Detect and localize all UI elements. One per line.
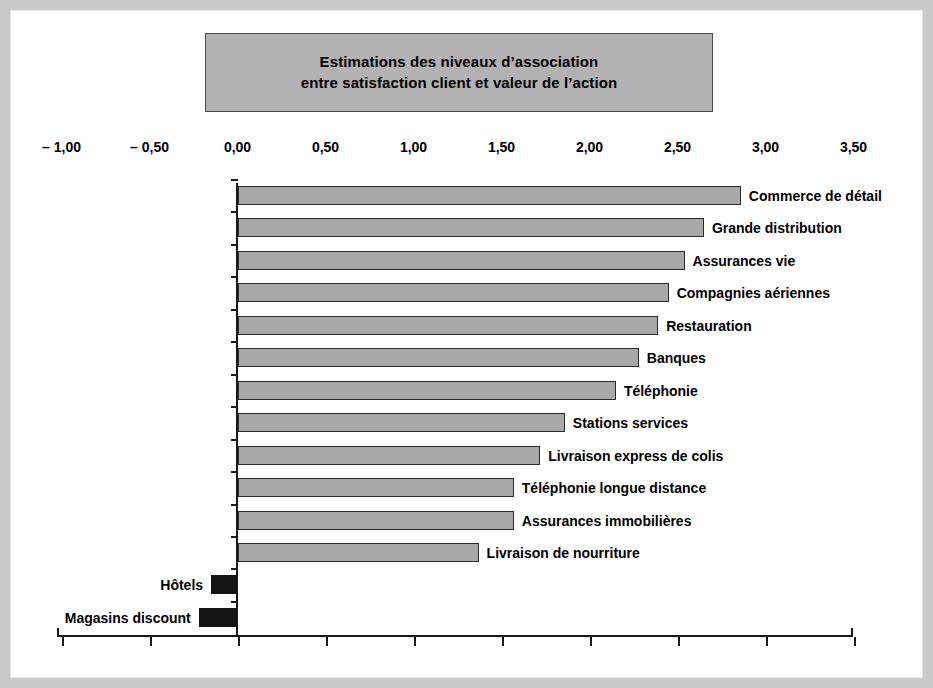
- chart-title-line-1: Estimations des niveaux d’association: [320, 53, 599, 70]
- value-axis-tick: [766, 637, 768, 646]
- bar-category-label: Assurances vie: [693, 252, 796, 271]
- value-axis-line: [57, 635, 853, 637]
- value-axis-tick: [238, 637, 240, 646]
- x-axis-tick-label: 1,00: [400, 139, 427, 155]
- x-axis-tick-label: 2,00: [576, 139, 603, 155]
- chart-title-line-2: entre satisfaction client et valeur de l…: [301, 74, 617, 91]
- bar-category-label: Livraison express de colis: [548, 447, 723, 466]
- category-axis-tick: [231, 439, 238, 441]
- category-axis-tick: [231, 568, 238, 570]
- category-axis-tick: [231, 341, 238, 343]
- bar: [238, 316, 659, 335]
- category-axis-tick: [231, 374, 238, 376]
- bar: [238, 543, 479, 562]
- bar: [211, 575, 237, 594]
- x-axis-tick-label: 0,50: [312, 139, 339, 155]
- bar: [238, 413, 565, 432]
- chart-title: Estimations des niveaux d’association en…: [301, 52, 617, 93]
- bar-category-label: Grande distribution: [712, 219, 842, 238]
- bar-category-label: Livraison de nourriture: [487, 544, 640, 563]
- value-axis-tick: [502, 637, 504, 646]
- value-axis-tick: [590, 637, 592, 646]
- bar: [238, 218, 704, 237]
- screenshot-root: Estimations des niveaux d’association en…: [0, 0, 933, 688]
- value-axis-tick: [678, 637, 680, 646]
- value-axis-tick: [326, 637, 328, 646]
- bar: [238, 478, 514, 497]
- x-axis-tick-label: 0,00: [224, 139, 251, 155]
- category-axis-tick: [231, 179, 238, 181]
- value-axis-tick: [62, 637, 64, 646]
- bar-category-label: Restauration: [666, 317, 752, 336]
- x-axis-tick-labels: – 1,00– 0,500,000,501,001,502,002,503,00…: [0, 139, 933, 161]
- x-axis-tick-label: 3,50: [840, 139, 867, 155]
- bar: [238, 186, 741, 205]
- bar: [238, 251, 685, 270]
- chart-title-box: Estimations des niveaux d’association en…: [205, 33, 713, 112]
- x-axis-tick-label: 1,50: [488, 139, 515, 155]
- category-axis-tick: [231, 244, 238, 246]
- bar-category-label: Compagnies aériennes: [677, 284, 830, 303]
- bar-category-label: Téléphonie longue distance: [522, 479, 706, 498]
- bar-category-label: Téléphonie: [624, 382, 698, 401]
- x-axis-tick-label: – 0,50: [130, 139, 169, 155]
- bar-category-label: Magasins discount: [65, 609, 191, 628]
- value-axis-endcap-right: [851, 628, 853, 637]
- bar-category-label: Banques: [647, 349, 706, 368]
- category-axis-tick: [231, 211, 238, 213]
- bar: [238, 381, 616, 400]
- category-axis-tick: [231, 276, 238, 278]
- bar: [199, 608, 238, 627]
- category-axis-tick: [231, 406, 238, 408]
- value-axis-tick: [854, 637, 856, 646]
- bar-category-label: Assurances immobilières: [522, 512, 692, 531]
- bar-category-label: Stations services: [573, 414, 688, 433]
- bar-chart: Estimations des niveaux d’association en…: [0, 0, 933, 688]
- category-axis-tick: [231, 471, 238, 473]
- category-axis-tick: [231, 601, 238, 603]
- category-axis-tick: [231, 309, 238, 311]
- bar: [238, 511, 514, 530]
- x-axis-tick-label: 3,00: [752, 139, 779, 155]
- value-axis-endcap-left: [57, 628, 59, 637]
- bar-category-label: Commerce de détail: [749, 187, 882, 206]
- value-axis-tick: [414, 637, 416, 646]
- bar: [238, 348, 639, 367]
- bar-category-label: Hôtels: [160, 576, 203, 595]
- category-axis-tick: [231, 504, 238, 506]
- x-axis-tick-label: 2,50: [664, 139, 691, 155]
- category-axis-tick: [231, 536, 238, 538]
- bar: [238, 446, 541, 465]
- value-axis-tick: [150, 637, 152, 646]
- bar: [238, 283, 669, 302]
- x-axis-tick-label: – 1,00: [42, 139, 81, 155]
